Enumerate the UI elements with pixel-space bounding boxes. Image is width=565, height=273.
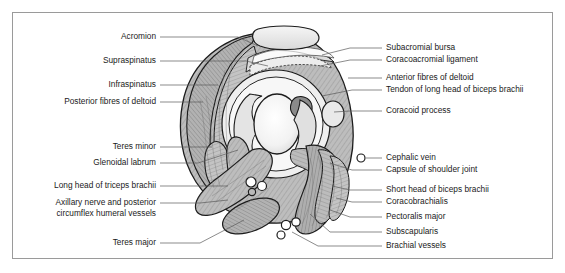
label-coracobrachialis: Coracobrachialis — [386, 196, 448, 206]
label-brachial-vessels: Brachial vessels — [386, 240, 446, 250]
label-supraspinatus: Supraspinatus — [103, 55, 156, 65]
anatomy-figure: AcromionSupraspinatusInfraspinatusPoster… — [0, 0, 565, 273]
label-subscapularis: Subscapularis — [386, 226, 438, 236]
label-teres-major: Teres major — [113, 237, 157, 247]
label-long-head-of-triceps-brachii: Long head of triceps brachii — [54, 180, 156, 190]
label-axillary-nerve-and-posterior-circumflex-humeral-vessels: Axillary nerve and posterior — [55, 197, 156, 207]
acromion-shape — [253, 26, 319, 50]
label-posterior-fibres-of-deltoid: Posterior fibres of deltoid — [64, 96, 156, 106]
figure-canvas: AcromionSupraspinatusInfraspinatusPoster… — [0, 0, 565, 273]
shoulder-cross-section-illustration — [180, 26, 365, 241]
coracoid-process-shape — [322, 101, 344, 127]
left-label-group: AcromionSupraspinatusInfraspinatusPoster… — [54, 31, 156, 247]
cephalic-vein-shape — [357, 154, 365, 162]
label-infraspinatus: Infraspinatus — [108, 79, 156, 89]
label-tendon-of-long-head-of-biceps-brachii: Tendon of long head of biceps brachii — [386, 84, 524, 94]
right-label-group: Subacromial bursaCoracoacromial ligament… — [386, 42, 524, 250]
label-glenoidal-labrum: Glenoidal labrum — [93, 157, 156, 167]
label-anterior-fibres-of-deltoid: Anterior fibres of deltoid — [386, 72, 474, 82]
label-capsule-of-shoulder-joint: Capsule of shoulder joint — [386, 164, 478, 174]
label-teres-minor: Teres minor — [113, 141, 157, 151]
label-cephalic-vein: Cephalic vein — [386, 152, 436, 162]
label-short-head-of-biceps-brachii: Short head of biceps brachii — [386, 184, 489, 194]
label-pectoralis-major: Pectoralis major — [386, 211, 446, 221]
label-acromion: Acromion — [121, 31, 156, 41]
leader-line-subacromial-bursa — [322, 48, 382, 55]
label-axillary-nerve-and-posterior-circumflex-humeral-vessels-line2: circumflex humeral vessels — [56, 208, 156, 218]
label-coracoacromial-ligament: Coracoacromial ligament — [386, 54, 478, 64]
label-coracoid-process: Coracoid process — [386, 105, 451, 115]
label-subacromial-bursa: Subacromial bursa — [386, 42, 456, 52]
